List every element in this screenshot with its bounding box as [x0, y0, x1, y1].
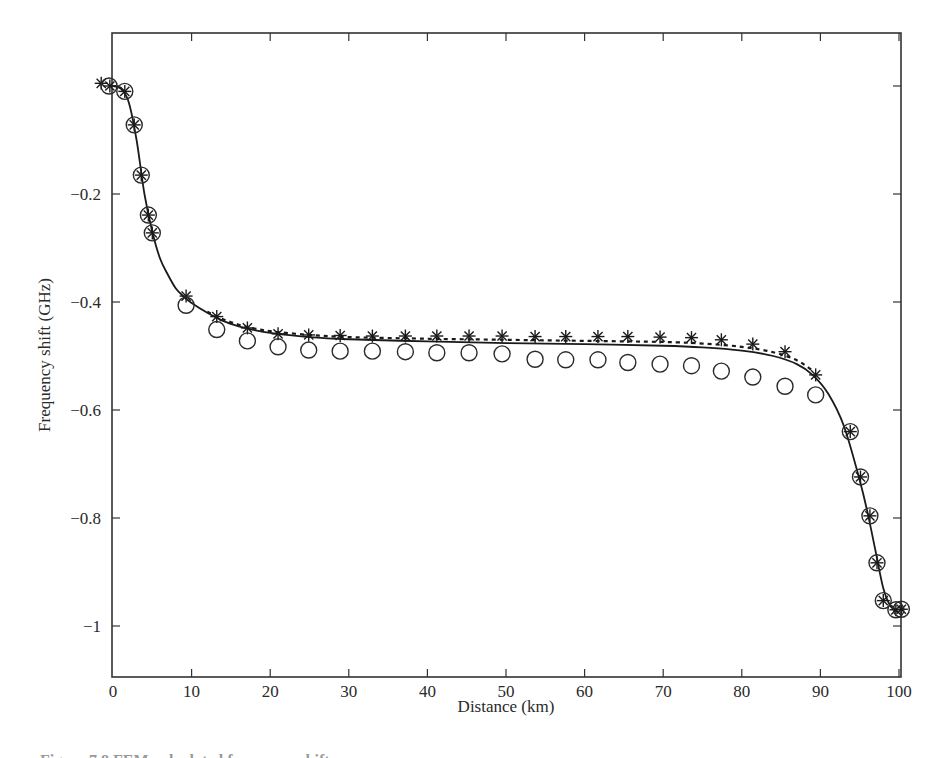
circle-marker — [397, 344, 413, 360]
circle-marker — [301, 342, 317, 358]
y-axis-label: Frequency shift (GHz) — [35, 278, 54, 432]
circle-marker — [429, 345, 445, 361]
x-axis-label: Distance (km) — [458, 697, 555, 716]
circle-marker — [364, 343, 380, 359]
circle-marker — [558, 352, 574, 368]
x-tick-label: 60 — [576, 682, 593, 701]
asterisk-marker — [870, 556, 883, 569]
circle-marker — [777, 378, 793, 394]
asterisk-marker — [366, 330, 379, 343]
y-tick-label: −0.6 — [70, 401, 101, 420]
circle-marker — [713, 363, 729, 379]
asterisk-marker — [591, 330, 604, 343]
asterisk-marker — [844, 425, 857, 438]
x-tick-label: 30 — [340, 682, 357, 701]
circle-marker — [620, 354, 636, 370]
chart: 0102030405060708090100 −0.2−0.4−0.6−0.8−… — [0, 0, 948, 758]
asterisk-marker — [146, 226, 159, 239]
x-tick-label: 80 — [733, 682, 750, 701]
asterisk-marker — [430, 330, 443, 343]
x-tick-label: 0 — [109, 682, 118, 701]
asterisk-marker — [399, 330, 412, 343]
asterisk-marker — [809, 368, 822, 381]
circle-marker — [590, 352, 606, 368]
circle-marker — [494, 346, 510, 362]
circle-marker — [745, 369, 761, 385]
asterisk-marker — [654, 331, 667, 344]
asterisk-marker — [559, 330, 572, 343]
asterisk-marker — [142, 209, 155, 222]
asterisk-marker — [463, 330, 476, 343]
y-axis-ticks: −0.2−0.4−0.6−0.8−1 — [70, 86, 901, 636]
asterisk-marker — [103, 80, 116, 93]
x-tick-label: 40 — [419, 682, 436, 701]
figure-caption: Figure 7.8 FEM-calculated frequency shif… — [40, 748, 920, 758]
y-tick-label: −0.4 — [70, 293, 101, 312]
circle-marker — [209, 322, 225, 338]
asterisk-marker — [779, 345, 792, 358]
asterisk-marker — [621, 330, 634, 343]
circle-marker — [461, 345, 477, 361]
x-tick-label: 100 — [886, 682, 912, 701]
solid-curve — [113, 86, 899, 613]
asterisk-marker — [302, 328, 315, 341]
asterisk-marker — [715, 333, 728, 346]
markers — [95, 77, 910, 618]
circle-marker — [270, 339, 286, 355]
asterisk-marker — [863, 509, 876, 522]
circle-marker — [239, 333, 255, 349]
asterisk-marker — [685, 331, 698, 344]
asterisk-marker — [334, 329, 347, 342]
circle-marker — [683, 358, 699, 374]
asterisk-marker — [529, 330, 542, 343]
asterisk-marker — [180, 290, 193, 303]
x-tick-label: 10 — [183, 682, 200, 701]
asterisk-marker — [496, 330, 509, 343]
x-tick-label: 20 — [262, 682, 279, 701]
x-tick-label: 90 — [812, 682, 829, 701]
circle-marker — [652, 356, 668, 372]
circle-marker — [527, 351, 543, 367]
asterisk-marker — [854, 470, 867, 483]
asterisk-marker — [746, 338, 759, 351]
circle-marker — [332, 343, 348, 359]
asterisk-marker — [118, 85, 131, 98]
x-tick-label: 70 — [655, 682, 672, 701]
y-tick-label: −1 — [83, 617, 101, 636]
asterisk-marker — [877, 594, 890, 607]
y-tick-label: −0.8 — [70, 509, 101, 528]
y-tick-label: −0.2 — [70, 185, 101, 204]
asterisk-marker — [135, 169, 148, 182]
asterisk-marker — [128, 118, 141, 131]
x-axis-ticks: 0102030405060708090100 — [109, 33, 912, 701]
circle-marker — [808, 387, 824, 403]
curves — [113, 86, 899, 613]
